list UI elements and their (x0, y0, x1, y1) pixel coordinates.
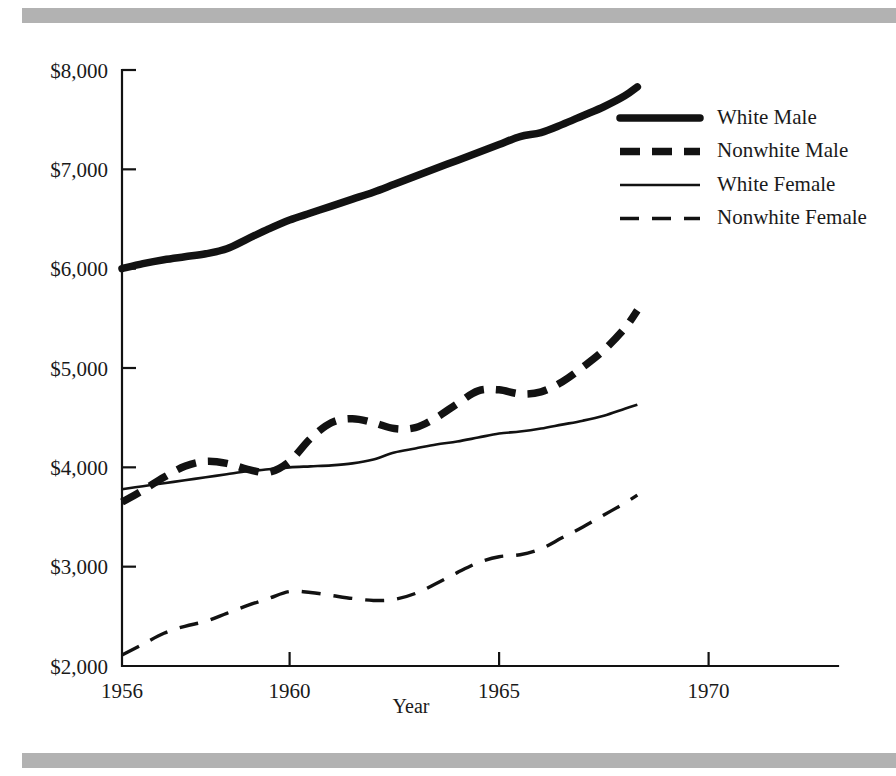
legend-label-white-male: White Male (717, 105, 817, 129)
series-lines (122, 87, 637, 655)
legend-label-nonwhite-female: Nonwhite Female (717, 205, 867, 229)
x-tick-label: 1970 (688, 679, 730, 703)
series-line-white-female (122, 405, 637, 489)
chart-legend: White MaleNonwhite MaleWhite FemaleNonwh… (620, 105, 867, 230)
x-tick-label: 1960 (269, 679, 311, 703)
legend-label-white-female: White Female (717, 172, 835, 196)
series-line-white-male (122, 87, 637, 269)
figure-container: $2,000$3,000$4,000$5,000$6,000$7,000$8,0… (0, 0, 896, 776)
y-tick-label: $7,000 (50, 158, 108, 182)
y-tick-label: $6,000 (50, 257, 108, 281)
x-tick-label: 1965 (478, 679, 520, 703)
y-axis-ticks: $2,000$3,000$4,000$5,000$6,000$7,000$8,0… (50, 59, 136, 679)
legend-label-nonwhite-male: Nonwhite Male (717, 138, 848, 162)
y-tick-label: $5,000 (50, 357, 108, 381)
series-line-nonwhite-female (122, 495, 637, 655)
line-chart: $2,000$3,000$4,000$5,000$6,000$7,000$8,0… (0, 0, 896, 776)
y-tick-label: $4,000 (50, 456, 108, 480)
y-tick-label: $8,000 (50, 59, 108, 83)
x-tick-label: 1956 (101, 679, 143, 703)
series-line-nonwhite-male (122, 310, 637, 502)
y-tick-label: $2,000 (50, 655, 108, 679)
x-axis-title: Year (393, 695, 430, 717)
y-tick-label: $3,000 (50, 555, 108, 579)
